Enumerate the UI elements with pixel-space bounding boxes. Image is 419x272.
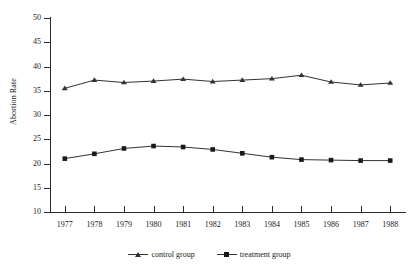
x-tick-1979 [124,206,125,212]
data-point [62,86,68,91]
series-treatment-group [62,144,392,163]
y-tick-label-45: 45 [20,38,41,46]
y-tick-30 [44,115,50,116]
triangle-marker-icon [135,252,141,257]
square-marker-icon [224,252,229,257]
data-point [181,145,186,150]
x-tick-label-1988: 1988 [370,220,410,229]
y-tick-label-25: 25 [20,135,41,143]
data-point [92,152,97,157]
data-point [358,158,363,163]
y-tick-label-15: 15 [20,184,41,192]
data-point [298,73,304,78]
data-point [329,158,334,163]
y-tick-35 [44,91,50,92]
y-tick-label-35: 35 [20,87,41,95]
y-tick-label-30: 30 [20,111,41,119]
legend-entry-treatment-group: treatment group [217,250,291,259]
y-tick-25 [44,139,50,140]
x-tick-1977 [65,206,66,212]
x-tick-1980 [154,206,155,212]
legend-label-control-group: control group [151,250,194,259]
x-tick-1982 [213,206,214,212]
y-tick-20 [44,164,50,165]
data-point [328,79,334,84]
data-point [121,80,127,85]
x-tick-1987 [361,206,362,212]
legend-entry-control-group: control group [128,250,194,259]
x-tick-1988 [390,206,391,212]
data-point [210,147,215,152]
control-group-line-icon [128,251,148,259]
data-point [270,155,275,160]
data-point [151,144,156,149]
legend-label-treatment-group: treatment group [240,250,291,259]
y-tick-45 [44,42,50,43]
y-tick-label-40: 40 [20,63,41,71]
series-plot [0,0,419,272]
series-control-group [62,73,393,91]
x-tick-1986 [331,206,332,212]
data-point [151,78,157,83]
chart-legend: control group treatment group [0,250,419,259]
y-tick-label-50: 50 [20,14,41,22]
treatment-group-line-icon [217,251,237,259]
y-tick-10 [44,212,50,213]
data-point [91,77,97,82]
data-point [358,82,364,87]
x-tick-1981 [183,206,184,212]
x-tick-1985 [301,206,302,212]
data-point [387,80,393,85]
data-point [299,157,304,162]
data-point [122,146,127,151]
data-point [240,151,245,156]
y-tick-50 [44,18,50,19]
data-point [239,77,245,82]
data-point [388,158,393,163]
y-tick-label-20: 20 [20,160,41,168]
y-axis-title: Abortion Rate [9,62,18,142]
x-tick-1983 [242,206,243,212]
x-axis-line [50,212,406,213]
data-point [62,156,67,161]
y-tick-15 [44,188,50,189]
y-tick-label-10: 10 [20,208,41,216]
x-tick-1984 [272,206,273,212]
y-tick-40 [44,67,50,68]
y-axis-line [50,17,51,213]
data-point [210,79,216,84]
x-tick-1978 [94,206,95,212]
abortion-rate-line-chart: Abortion Rate 101520253035404550 1977197… [0,0,419,272]
data-point [269,76,275,81]
data-point [180,76,186,81]
